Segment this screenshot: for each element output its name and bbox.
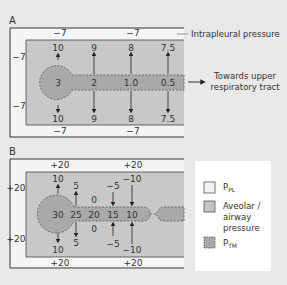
- a-outer-top-right: −7: [126, 28, 139, 38]
- a-outer-left-bottom: −7: [12, 101, 25, 111]
- legend: PPL Aveolar / airway pressure PTM: [195, 161, 271, 271]
- b-airway-value-3: 20: [88, 210, 100, 220]
- a-outer-top-left: −7: [53, 28, 66, 38]
- legend-swatch-ppl: [204, 182, 215, 193]
- b-bottom-value-4: −5: [106, 239, 119, 249]
- a-bottom-value-4: 7.5: [161, 114, 175, 124]
- towards-label-line1: Towards upper: [213, 71, 276, 81]
- b-top-value-1: 10: [52, 174, 64, 184]
- a-airway-value-3: 1.0: [124, 78, 139, 88]
- panel-b-label: B: [9, 146, 16, 157]
- b-airway-value-5: 10: [126, 210, 138, 220]
- a-bottom-value-2: 9: [91, 114, 97, 124]
- b-bottom-value-2: 5: [73, 238, 79, 248]
- b-airway-value-4: 15: [107, 210, 118, 220]
- b-outer-top-left: +20: [51, 160, 70, 170]
- b-bottom-value-5: −10: [123, 245, 142, 255]
- b-airway-value-2: 25: [70, 210, 81, 220]
- b-top-value-2: 5: [73, 181, 79, 191]
- a-airway-value-2: 2: [91, 78, 97, 88]
- a-top-value-2: 9: [91, 43, 97, 53]
- b-outer-top-right: +20: [124, 160, 143, 170]
- legend-label-alveolar-3: pressure: [223, 223, 260, 233]
- legend-swatch-alveolar: [204, 201, 215, 212]
- a-airway-value-1: 3: [55, 78, 61, 88]
- panel-a: A −7 −7 −7 −7 −7 −7 3 2 1.0 0.5 10 9 8 7…: [9, 15, 280, 137]
- a-bottom-value-1: 10: [52, 114, 64, 124]
- b-bottom-value-3: 0: [91, 224, 97, 234]
- b-outer-left-top: +20: [7, 183, 26, 193]
- a-outer-left-top: −7: [12, 52, 25, 62]
- panel-b: B +20 +20 +20 +20 +20 +20 30 25 20 15 10…: [7, 146, 185, 269]
- b-top-value-4: −5: [106, 181, 119, 191]
- b-outer-left-bottom: +20: [7, 234, 26, 244]
- b-airway-value-1: 30: [52, 210, 64, 220]
- legend-label-alveolar-2: airway: [223, 212, 251, 222]
- b-outer-bottom-right: +20: [124, 258, 143, 268]
- b-bottom-value-1: 10: [52, 245, 64, 255]
- b-top-value-3: 0: [91, 195, 97, 205]
- a-top-value-1: 10: [52, 43, 64, 53]
- legend-swatch-ptm: [204, 237, 215, 248]
- b-top-value-5: −10: [123, 174, 142, 184]
- a-outer-bottom-right: −7: [126, 126, 139, 136]
- intrapleural-pressure-label: Intrapleural pressure: [191, 29, 280, 39]
- legend-label-alveolar-1: Aveolar /: [223, 201, 261, 211]
- b-outer-bottom-left: +20: [51, 258, 70, 268]
- a-top-value-4: 7.5: [161, 43, 175, 53]
- a-top-value-3: 8: [128, 43, 134, 53]
- a-outer-bottom-left: −7: [53, 126, 66, 136]
- pressure-diagram: A −7 −7 −7 −7 −7 −7 3 2 1.0 0.5 10 9 8 7…: [0, 0, 287, 285]
- panel-a-label: A: [9, 15, 16, 26]
- a-bottom-value-3: 8: [128, 114, 134, 124]
- towards-label-line2: respiratory tract: [210, 82, 280, 92]
- a-airway-value-4: 0.5: [161, 78, 175, 88]
